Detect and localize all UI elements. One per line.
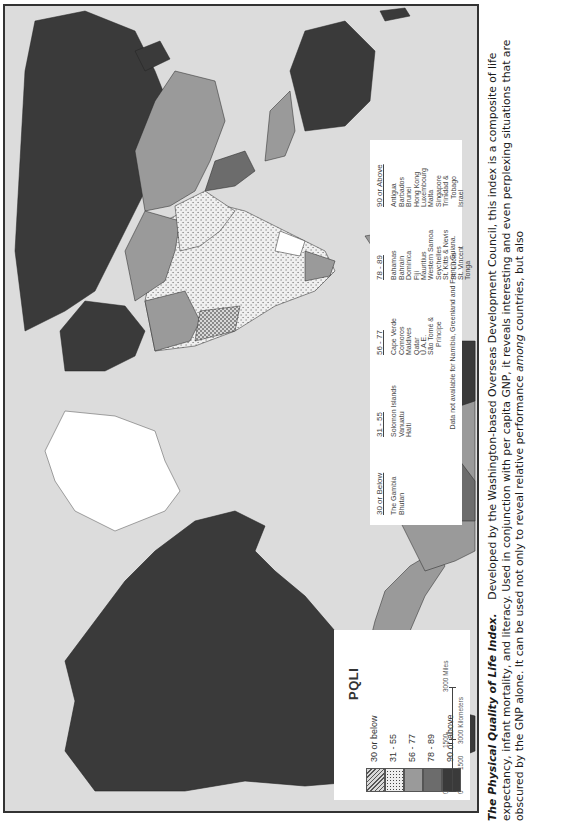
legend-country: The Gambia	[390, 453, 397, 515]
legend-class-56-77: 56 - 77	[404, 632, 423, 792]
europe	[60, 301, 145, 371]
legend-country: Vanuatu	[398, 375, 405, 437]
legend-country: Comoros	[398, 293, 405, 355]
scale-km-3000: 3000 Kilometers	[457, 697, 464, 744]
legend-country: Haiti	[405, 375, 412, 437]
solid-swatch	[404, 768, 423, 792]
legend-country: Israel	[457, 145, 464, 207]
legend-col-header: 56 - 77	[376, 293, 383, 355]
legend-class-label: 31 - 55	[388, 734, 398, 762]
legend-country: Maldives	[405, 293, 412, 355]
legend-country: Mauritius	[420, 218, 427, 280]
legend-country: Western Samoa	[427, 218, 434, 280]
scale-bar-line	[452, 688, 453, 792]
legend-country: Solomon Islands	[390, 375, 397, 437]
scale-tick	[449, 791, 456, 792]
legend-country: Hong Kong	[413, 145, 420, 207]
legend-col-56-77: 56 - 77 Cape Verde Comoros Maldives Qata…	[376, 293, 442, 355]
legend-class-78-89: 78 - 89	[423, 632, 442, 792]
scale-bar	[342, 642, 372, 792]
legend-country: Tonga	[464, 218, 471, 280]
legend-country: Malta	[427, 145, 434, 207]
scale-miles-1500: 1500	[442, 734, 449, 748]
caption-text-end: countries, but also	[513, 231, 526, 335]
legend-col-30-or-below: 30 or Below The Gambia Bhutan	[376, 453, 405, 515]
legend-country: Barbados	[398, 145, 405, 207]
australia	[290, 21, 375, 131]
caption-emphasis: among	[513, 334, 526, 371]
legend-country: Qatar	[413, 293, 420, 355]
indonesia	[265, 91, 295, 161]
legend-col-header: 90 or Above	[376, 145, 383, 207]
caption-title: The Physical Quality of Life Index.	[486, 613, 499, 821]
figure-caption: The Physical Quality of Life Index. Deve…	[486, 9, 527, 821]
legend-country: St. Vincent	[457, 218, 464, 280]
legend-col-header: 30 or Below	[376, 453, 383, 515]
legend-country: Brunei	[405, 145, 412, 207]
legend-class-label: 56 - 77	[407, 734, 417, 762]
small-countries-legend: 30 or Below The Gambia Bhutan 31 - 55 So…	[370, 140, 462, 525]
new-zealand	[380, 8, 410, 21]
legend-country: Bahamas	[390, 218, 397, 280]
legend-country: Seychelles	[435, 218, 442, 280]
legend-country: U.A.E.	[420, 293, 427, 355]
legend-country: Antigua	[390, 145, 397, 207]
legend-country: Príncipe	[435, 293, 442, 355]
scale-miles-3000: 3000 Miles	[442, 661, 449, 692]
legend-country: Fiji	[413, 218, 420, 280]
legend-country: Luxembourg	[420, 145, 427, 207]
scale-km-1500: 1500	[457, 756, 464, 770]
greenland	[45, 411, 180, 531]
legend-country: São Tomé &	[427, 293, 434, 355]
legend-class-31-55: 31 - 55	[385, 632, 404, 792]
legend-col-78-89: 78 - 89 Bahamas Bahrain Dominica Fiji Ma…	[376, 218, 472, 280]
legend-country: Singapore	[435, 145, 442, 207]
legend-col-31-55: 31 - 55 Solomon Islands Vanuatu Haiti	[376, 375, 413, 437]
scale-bar: 0 1500 3000 Miles 0 1500 3000 Kilometers	[442, 642, 466, 792]
legend-country: Dominica	[405, 218, 412, 280]
scale-km-0: 0	[457, 790, 464, 794]
legend-country: Bahrain	[398, 218, 405, 280]
stipple-swatch	[385, 768, 404, 792]
solid-swatch	[423, 768, 442, 792]
legend-country: Cape Verde	[390, 293, 397, 355]
legend-country: Bhutan	[398, 453, 405, 515]
legend-col-header: 31 - 55	[376, 375, 383, 437]
scale-miles-0: 0	[442, 790, 449, 794]
rotated-page: 30 or Below The Gambia Bhutan 31 - 55 So…	[0, 0, 568, 823]
southeast-asia	[205, 151, 255, 191]
scale-tick	[449, 687, 456, 688]
scale-tick	[449, 739, 456, 740]
legend-note: Data not available for Namibia, Greenlan…	[449, 140, 456, 525]
legend-class-label: 78 - 89	[426, 734, 436, 762]
legend-col-header: 78 - 89	[376, 218, 383, 280]
